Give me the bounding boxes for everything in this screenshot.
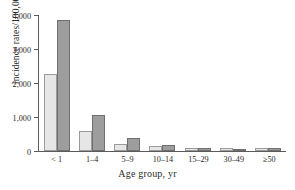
bar [57,20,70,151]
bar-group [145,16,180,151]
bar [268,148,281,151]
bar [185,148,198,151]
bar [44,74,57,151]
x-axis-title: Age group, yr [0,168,295,179]
y-tick-label: 0 [27,148,31,157]
y-tick-label: 4,000 [13,12,31,21]
bar [220,148,233,151]
bar [79,131,92,151]
bar [162,145,175,151]
bar [149,146,162,151]
bar [233,149,246,151]
x-tick-label: 5–9 [110,155,145,164]
bar [198,148,211,151]
y-tick-label: 2,000 [13,80,31,89]
bar-groups [39,16,286,151]
x-tick-label: < 1 [39,155,74,164]
x-tick-label: 15–29 [181,155,216,164]
plot-area: 01,0002,0003,0004,000 [38,16,286,152]
x-tick-label: ≥50 [252,155,287,164]
x-axis-tick-labels: < 11–45–910–1415–2930–49≥50 [39,155,287,164]
x-axis-line [38,151,286,152]
x-tick-label: 1–4 [74,155,109,164]
bar-group [180,16,215,151]
bar-group [215,16,250,151]
bar [114,144,127,151]
y-tick-mark [34,151,39,152]
bar [255,148,268,151]
y-tick-label: 3,000 [13,46,31,55]
x-tick-label: 10–14 [145,155,180,164]
bar-group [39,16,74,151]
y-tick-label: 1,000 [13,114,31,123]
bar [92,115,105,151]
bar-group [251,16,286,151]
bar [127,138,140,151]
bar-group [74,16,109,151]
bar-group [110,16,145,151]
bar-chart: Incidence rates/100,000 01,0002,0003,000… [0,0,295,190]
x-tick-label: 30–49 [216,155,251,164]
